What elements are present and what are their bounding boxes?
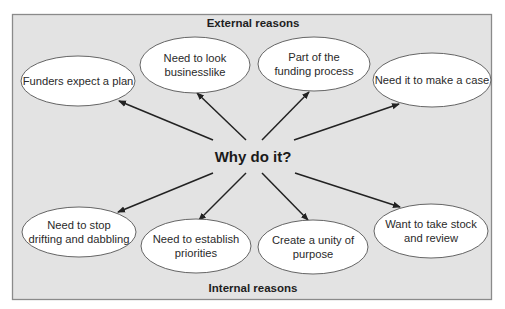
node-label: drifting and dabbling	[29, 233, 130, 245]
ellipse-shape	[258, 220, 368, 274]
node-funders-expect-a-plan: Funders expect a plan	[21, 56, 135, 106]
ellipse-shape	[140, 37, 250, 93]
node-label: and review	[404, 232, 459, 244]
node-need-it-to-make-a-case: Need it to make a case	[373, 53, 491, 107]
node-part-of-the-funding-process: Part of thefunding process	[258, 37, 370, 91]
central-question: Why do it?	[215, 148, 292, 165]
reasons-diagram: External reasons Internal reasons Funder…	[0, 0, 505, 309]
node-label: Funders expect a plan	[23, 75, 134, 87]
external-reasons-heading: External reasons	[207, 17, 300, 29]
node-label: purpose	[293, 248, 333, 260]
node-label: Need to establish	[153, 233, 239, 245]
node-label: funding process	[275, 65, 354, 77]
node-create-a-unity-of-purpose: Create a unity ofpurpose	[258, 220, 368, 274]
node-want-to-take-stock-and-review: Want to take stockand review	[374, 204, 488, 258]
node-need-to-look-businesslike: Need to lookbusinesslike	[140, 37, 250, 93]
node-label: Need to look	[164, 52, 227, 64]
node-label: priorities	[175, 247, 218, 259]
node-need-to-establish-priorities: Need to establishpriorities	[141, 219, 251, 273]
node-label: businesslike	[165, 66, 226, 78]
node-label: Need it to make a case	[375, 74, 489, 86]
node-label: Part of the	[288, 51, 340, 63]
node-need-to-stop-drifting-and-dabbling: Need to stopdrifting and dabbling	[22, 207, 136, 257]
ellipse-shape	[22, 207, 136, 257]
internal-reasons-heading: Internal reasons	[209, 282, 298, 294]
ellipse-shape	[258, 37, 370, 91]
ellipse-shape	[374, 204, 488, 258]
node-label: Need to stop	[47, 219, 110, 231]
ellipse-shape	[141, 219, 251, 273]
node-label: Want to take stock	[385, 218, 477, 230]
node-label: Create a unity of	[272, 234, 355, 246]
